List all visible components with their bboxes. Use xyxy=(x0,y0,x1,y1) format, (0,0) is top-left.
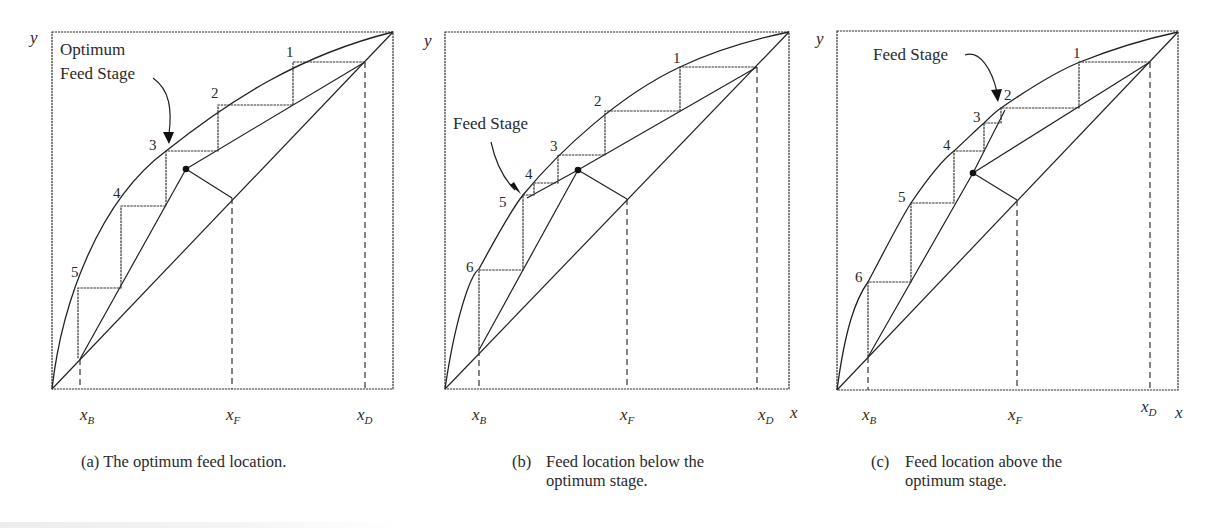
rectifying-operating-line xyxy=(973,62,1150,173)
arrow-icon xyxy=(153,78,170,134)
feed-point xyxy=(183,166,190,173)
x-axis-label: x xyxy=(1174,403,1183,422)
q-line xyxy=(186,169,232,198)
stage-label-1: 1 xyxy=(286,44,294,60)
stripping-operating-line xyxy=(80,169,186,359)
stage-label-5: 5 xyxy=(499,194,507,210)
xf-label: xF xyxy=(1007,405,1023,426)
stage-label-3: 3 xyxy=(973,109,981,125)
xd-label: xD xyxy=(356,405,373,426)
arrow-icon xyxy=(965,54,997,92)
diagonal-line xyxy=(445,32,789,389)
y-axis-label: y xyxy=(422,31,432,50)
arrowhead-icon xyxy=(991,89,1002,102)
q-line xyxy=(973,173,1017,200)
panel-a: y 1 2 3 4 5 Optimum Feed Stage xB xF xD xyxy=(28,28,393,426)
stage-label-1: 1 xyxy=(673,50,681,66)
arrowhead-icon xyxy=(163,132,174,144)
stage-label-1: 1 xyxy=(1073,45,1081,61)
xd-label: xD xyxy=(757,405,774,426)
panel-c: y 1 2 3 4 5 6 Feed Stage xB xF xD x xyxy=(814,29,1183,426)
arrow-icon xyxy=(491,142,515,190)
caption-a: (a) The optimum feed location. xyxy=(81,452,286,471)
stage-label-4: 4 xyxy=(525,166,533,182)
q-line xyxy=(578,170,627,199)
stage-label-6: 6 xyxy=(855,269,863,285)
annotation-line-2: Feed Stage xyxy=(60,64,135,83)
stage-label-6: 6 xyxy=(466,259,474,275)
arrowhead-icon xyxy=(510,182,521,194)
caption-b: (b)Feed location below the optimum stage… xyxy=(512,452,704,490)
caption-tag: (b) xyxy=(512,452,546,471)
stage-steps xyxy=(479,67,757,350)
stage-label-2: 2 xyxy=(594,93,602,109)
panel-b: y 1 2 3 4 5 6 Feed Stage xB xF xD x xyxy=(422,31,798,426)
annotation-line-1: Optimum xyxy=(60,40,125,59)
cropped-text-strip xyxy=(0,522,400,528)
xf-label: xF xyxy=(619,405,635,426)
caption-text-line-2: optimum stage. xyxy=(512,471,704,490)
diagonal-line xyxy=(837,32,1178,390)
y-axis-label: y xyxy=(28,28,38,47)
stage-label-3: 3 xyxy=(550,138,558,154)
rectifying-operating-line xyxy=(527,67,757,198)
x-axis-label: x xyxy=(789,403,798,422)
stage-label-2: 2 xyxy=(1004,87,1012,103)
y-axis-label: y xyxy=(814,29,824,48)
stage-label-5: 5 xyxy=(71,264,79,280)
caption-c: (c)Feed location above the optimum stage… xyxy=(871,452,1062,490)
caption-tag: (a) xyxy=(81,452,99,471)
stage-label-3: 3 xyxy=(149,137,157,153)
annotation-line-1: Feed Stage xyxy=(873,45,948,64)
annotation-line-1: Feed Stage xyxy=(453,114,528,133)
feed-point xyxy=(575,167,582,174)
feed-point xyxy=(970,170,977,177)
stage-label-4: 4 xyxy=(113,185,121,201)
xb-label: xB xyxy=(861,405,877,426)
caption-text-line-2: optimum stage. xyxy=(871,471,1062,490)
caption-text-line-1: Feed location below the xyxy=(546,452,704,471)
xb-label: xB xyxy=(79,405,95,426)
stage-label-5: 5 xyxy=(898,189,906,205)
caption-tag: (c) xyxy=(871,452,905,471)
stage-label-4: 4 xyxy=(943,137,951,153)
stage-label-2: 2 xyxy=(211,85,219,101)
xf-label: xF xyxy=(225,405,241,426)
xb-label: xB xyxy=(471,405,487,426)
diagonal-line xyxy=(52,32,393,389)
xd-label: xD xyxy=(1140,397,1157,418)
caption-text: The optimum feed location. xyxy=(103,452,286,471)
caption-text-line-1: Feed location above the xyxy=(905,452,1062,471)
